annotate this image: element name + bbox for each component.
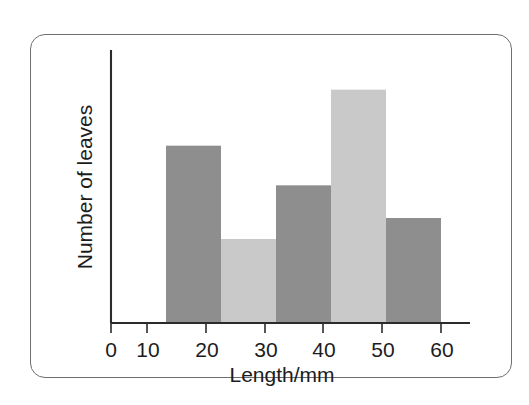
figure-border <box>30 34 512 378</box>
histogram-figure: 0 10 20 30 40 50 60 Length/mm Number of … <box>0 0 529 405</box>
